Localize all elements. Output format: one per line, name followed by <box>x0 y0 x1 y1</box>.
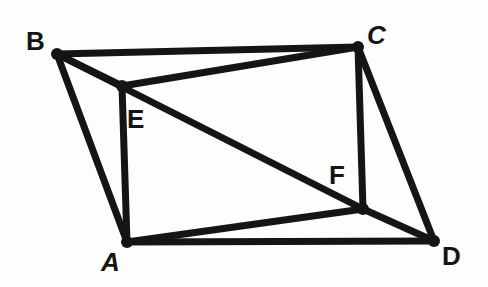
vertex-label-b: B <box>26 28 45 54</box>
vertex-point-d <box>428 235 440 247</box>
edge-layer <box>57 47 434 242</box>
geometry-figure: ABCDEF <box>0 0 488 287</box>
edge-ad <box>127 241 434 242</box>
vertex-point-e <box>116 80 128 92</box>
edge-af <box>127 209 363 242</box>
vertex-label-e: E <box>127 106 144 132</box>
vertex-label-f: F <box>329 162 345 188</box>
vertex-label-d: D <box>442 243 461 269</box>
vertex-label-a: A <box>101 249 120 275</box>
vertex-point-b <box>51 48 63 60</box>
vertex-point-a <box>121 236 133 248</box>
edge-cf <box>358 47 363 209</box>
vertex-point-c <box>352 41 364 53</box>
vertex-point-f <box>357 203 369 215</box>
vertex-label-c: C <box>367 22 386 48</box>
figure-canvas <box>0 0 488 287</box>
